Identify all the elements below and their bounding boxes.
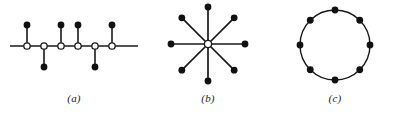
cycle-node-n <box>332 7 339 14</box>
star-node-nw <box>178 14 185 21</box>
star-hub-node <box>204 40 211 47</box>
star-node-sw <box>178 67 185 74</box>
diagram-a-svg <box>0 0 148 92</box>
leaf-node-6 <box>109 22 116 29</box>
star-node-w <box>168 41 175 48</box>
cycle-node-e <box>367 42 374 49</box>
panel-c-cycle-graph: (c) <box>268 0 402 117</box>
star-node-se <box>231 67 238 74</box>
leaf-node-1 <box>24 22 31 29</box>
spine-node-3 <box>58 43 64 49</box>
cycle-node-s <box>332 77 339 84</box>
panel-a-caption: (a) <box>0 92 148 105</box>
spoke-edge-nw <box>182 18 208 44</box>
panel-c-caption: (c) <box>268 92 402 105</box>
spine-node-2 <box>41 43 47 49</box>
spoke-edge-sw <box>182 44 208 70</box>
star-node-e <box>242 41 249 48</box>
star-node-ne <box>231 14 238 21</box>
panel-b-star-graph: (b) <box>148 0 268 117</box>
leaf-node-2 <box>41 64 48 71</box>
cycle-node-se <box>356 66 363 73</box>
leaf-node-4 <box>75 22 82 29</box>
cycle-node-w <box>297 42 304 49</box>
leaf-node-5 <box>92 64 99 71</box>
star-node-s <box>205 78 212 85</box>
cycle-node-nw <box>307 17 314 24</box>
figure-container: (a) (b) <box>0 0 402 117</box>
diagram-c-svg <box>268 0 402 92</box>
spine-node-5 <box>92 43 98 49</box>
spoke-edge-ne <box>208 18 234 44</box>
spine-node-4 <box>75 43 81 49</box>
spine-node-1 <box>24 43 30 49</box>
star-node-n <box>205 4 212 11</box>
diagram-b-svg <box>148 0 268 92</box>
leaf-node-3 <box>58 22 65 29</box>
spoke-edge-se <box>208 44 234 70</box>
spine-node-6 <box>109 43 115 49</box>
panel-a-caterpillar-tree: (a) <box>0 0 148 117</box>
cycle-node-sw <box>307 66 314 73</box>
cycle-node-ne <box>356 17 363 24</box>
panel-b-caption: (b) <box>148 92 268 105</box>
